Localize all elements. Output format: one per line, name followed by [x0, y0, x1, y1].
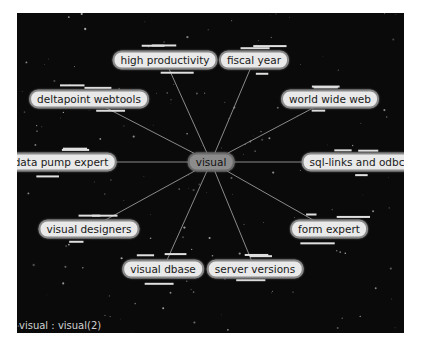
- center-node[interactable]: visual: [188, 153, 235, 172]
- graph-node[interactable]: visual designers: [38, 220, 139, 239]
- graph-node[interactable]: data pump expert: [17, 153, 116, 172]
- graph-node[interactable]: world wide web: [281, 90, 379, 109]
- graph-node[interactable]: sql-links and odbc: [302, 153, 404, 172]
- graph-node[interactable]: server versions: [207, 260, 304, 279]
- graph-node[interactable]: high productivity: [113, 51, 218, 70]
- status-text: visual : visual(2): [19, 320, 101, 331]
- graph-canvas[interactable]: high productivityfiscal yeardeltapoint w…: [17, 13, 404, 333]
- graph-node[interactable]: deltapoint webtools: [29, 90, 149, 109]
- graph-node[interactable]: form expert: [290, 220, 368, 239]
- graph-node[interactable]: visual dbase: [122, 260, 204, 279]
- graph-node[interactable]: fiscal year: [219, 51, 289, 70]
